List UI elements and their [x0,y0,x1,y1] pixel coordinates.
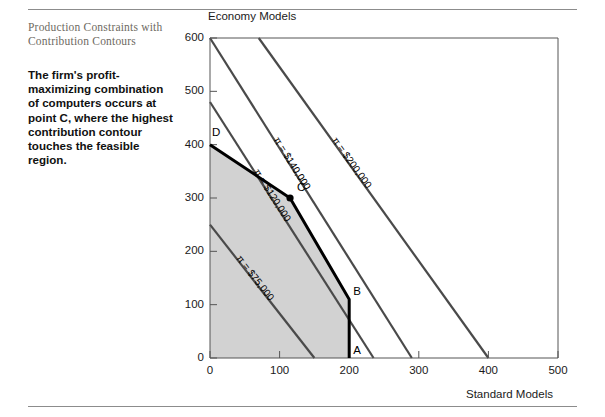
vertex-label-B: B [353,285,361,297]
x-tick-label: 200 [329,364,369,376]
x-tick-label: 300 [399,364,439,376]
y-tick-label: 600 [174,31,204,43]
vertex-label-C: C [297,181,305,193]
x-tick-label: 400 [468,364,508,376]
y-tick-label: 200 [174,244,204,256]
vertex-label-A: A [353,344,361,356]
x-tick-label: 500 [538,364,578,376]
x-tick-label: 100 [260,364,300,376]
production-constraints-chart [0,0,605,417]
vertex-marker-C [286,194,293,201]
vertex-label-D: D [212,126,220,138]
y-tick-label: 100 [174,298,204,310]
y-tick-label: 500 [174,84,204,96]
y-tick-label: 0 [174,351,204,363]
y-tick-label: 400 [174,138,204,150]
x-tick-label: 0 [190,364,230,376]
y-tick-label: 300 [174,191,204,203]
